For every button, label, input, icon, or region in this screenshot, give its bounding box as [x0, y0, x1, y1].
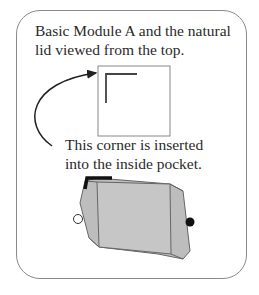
black-dot-icon [186, 218, 195, 227]
corner-marker [106, 74, 137, 103]
white-dot-icon [74, 215, 83, 224]
top-view-square [98, 66, 170, 136]
curved-arrow-icon [35, 73, 96, 146]
module-3d-view [74, 178, 195, 259]
diagram-art [0, 0, 259, 295]
